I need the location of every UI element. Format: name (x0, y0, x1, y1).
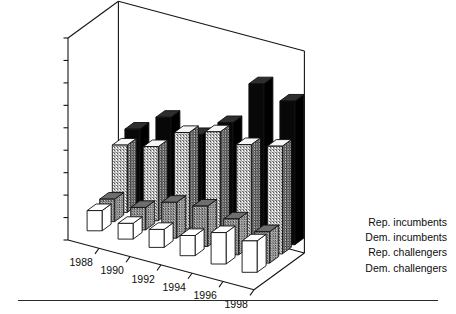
x-axis-tick (219, 282, 223, 288)
bar (211, 226, 235, 264)
bar-side-face (295, 94, 304, 244)
bar (118, 217, 142, 239)
value-axis-top-edge (68, 1, 118, 38)
legend-item-2: Rep. challengers (368, 246, 447, 258)
x-axis-tick-label: 1994 (163, 281, 186, 293)
footer-rule (18, 300, 438, 301)
x-axis-tick (126, 257, 130, 263)
x-axis-tick (95, 248, 99, 254)
bar-side-face (177, 196, 186, 239)
bar-front-face (149, 229, 164, 247)
bar-front-face (180, 236, 195, 256)
legend-item-1: Dem. incumbents (365, 231, 447, 243)
bar-side-face (127, 138, 136, 212)
bar (180, 229, 204, 256)
bar (242, 234, 266, 272)
bar-front-face (118, 223, 133, 239)
bar-front-face (87, 211, 102, 231)
bar-front-face (211, 233, 226, 264)
legend-item-0: Rep. incumbents (368, 216, 447, 228)
bar-side-face (282, 140, 291, 254)
x-axis-tick (188, 273, 192, 279)
bar (87, 204, 111, 231)
x-axis-tick-label: 1988 (70, 256, 93, 268)
x-axis-tick (157, 265, 161, 271)
bar-front-face (242, 241, 257, 272)
bar (149, 223, 173, 248)
x-axis-tick (250, 290, 254, 296)
back-wall-top-edge (118, 1, 304, 51)
x-axis-tick-label: 1990 (101, 264, 124, 276)
x-axis-tick-label: 1992 (132, 273, 155, 285)
legend-item-3: Dem. challengers (365, 262, 447, 274)
chart-figure: $0$100,000$200,000$300,000$400,000$500,0… (0, 0, 456, 314)
